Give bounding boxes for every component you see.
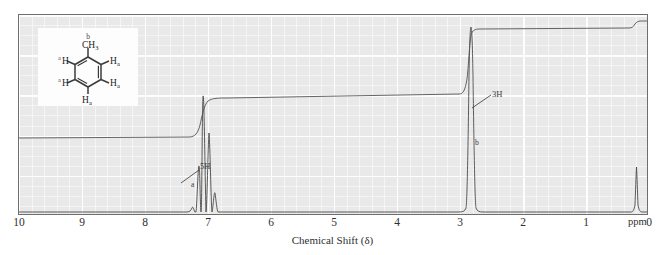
label-peak-b: b xyxy=(475,139,479,147)
h-label-left-bottom: H xyxy=(62,78,69,88)
molecule-structure-inset: b CH3 a H a H Ha Ha Ha xyxy=(38,28,138,106)
hydrogen-bonds xyxy=(67,61,109,94)
label-3h: 3H xyxy=(492,90,502,99)
label-5h: 5H xyxy=(200,162,210,171)
leader-line-3h xyxy=(472,95,491,108)
nmr-figure: b CH3 a H a H Ha Ha Ha 5H a 3H b 10 9 8 … xyxy=(0,0,665,255)
methyl-formula: CH3 xyxy=(82,40,98,51)
h-label-bottom: Ha xyxy=(82,95,92,106)
toluene-structure: b CH3 a H a H Ha Ha Ha xyxy=(38,28,138,106)
h-label-right-top: Ha xyxy=(110,56,120,67)
h-label-left-bottom-prefix: a xyxy=(58,76,61,83)
h-label-right-bottom: Ha xyxy=(110,78,120,89)
leader-line-5h xyxy=(181,170,199,183)
label-peak-a: a xyxy=(191,181,194,189)
h-label-left-top: H xyxy=(62,56,69,66)
ring-double-bonds xyxy=(78,60,99,83)
benzene-ring xyxy=(75,57,101,87)
h-label-left-top-prefix: a xyxy=(58,54,61,61)
